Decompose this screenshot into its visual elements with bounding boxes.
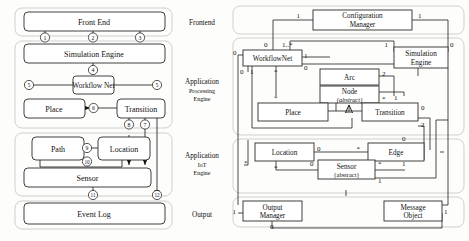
label-front-end: Front End bbox=[78, 18, 110, 27]
label-simulation-engine: Simulation Engine bbox=[64, 50, 124, 59]
label-simulation-engine-1: Simulation bbox=[405, 50, 437, 58]
layer-label-frontend: Frontend bbox=[189, 19, 215, 27]
layer-label-processing-2: Processing bbox=[189, 88, 215, 94]
right-class-boxes bbox=[243, 10, 448, 221]
label-transition: Transition bbox=[375, 109, 405, 117]
label-location: Location bbox=[272, 149, 298, 157]
badge-text-9: 9 bbox=[86, 145, 89, 151]
badge-text-6: 6 bbox=[92, 105, 95, 111]
badge-text-8: 8 bbox=[128, 122, 131, 128]
mult-msg-r: 1 bbox=[444, 208, 448, 216]
layer-label-processing-3: Engine bbox=[194, 96, 211, 102]
mult-trans-r1: 0 bbox=[421, 104, 425, 112]
mult-edge-top: 0 bbox=[402, 135, 406, 143]
mult-wfn-b3: * bbox=[274, 68, 278, 76]
mult-wfn-topm: 1..* bbox=[282, 41, 293, 49]
badge-text-1: 1 bbox=[44, 35, 47, 41]
mult-place-top: * bbox=[274, 94, 278, 102]
label-sensor-stereotype: {abstract} bbox=[333, 171, 359, 179]
label-message-object-1: Message bbox=[400, 204, 425, 212]
label-sensor: Sensor bbox=[77, 174, 99, 183]
mult-wfn-r1: 1 bbox=[304, 52, 308, 60]
mult-sensor-br: 1 bbox=[378, 177, 382, 185]
label-place: Place bbox=[45, 105, 63, 114]
mult-wfn-left: 0 bbox=[233, 49, 237, 57]
mult-cfg-right: 1 bbox=[418, 12, 422, 20]
label-edge: Edge bbox=[389, 149, 404, 157]
mult-sensor-r: * bbox=[378, 160, 382, 168]
badge-text-10: 10 bbox=[84, 159, 90, 165]
mult-wfn-r2: 0 bbox=[304, 64, 308, 72]
badge-text-12: 12 bbox=[154, 192, 160, 198]
layer-label-processing-1: Application bbox=[185, 78, 219, 86]
layer-label-output: Output bbox=[192, 211, 212, 219]
label-workflow-net: Workflow Net bbox=[72, 81, 115, 90]
mult-cfg-left: 1 bbox=[297, 12, 301, 20]
label-transition: Transition bbox=[125, 105, 158, 114]
layer-labels: Frontend Application Processing Engine A… bbox=[185, 19, 219, 219]
mult-edge-l: * bbox=[357, 145, 361, 153]
mult-loc-b: * bbox=[274, 164, 278, 172]
label-path: Path bbox=[51, 145, 65, 154]
figure-root: Frontend Application Processing Engine A… bbox=[0, 0, 469, 241]
diagram-svg: Frontend Application Processing Engine A… bbox=[0, 0, 469, 241]
mult-sim-topl: 1 bbox=[385, 41, 389, 49]
badge-text-7: 7 bbox=[144, 122, 147, 128]
label-output-manager-2: Manager bbox=[260, 212, 286, 220]
label-event-log: Event Log bbox=[77, 210, 111, 219]
label-location: Location bbox=[110, 145, 138, 154]
badge-text-3: 3 bbox=[139, 35, 142, 41]
generalization-arrows bbox=[346, 105, 349, 196]
mult-out-l: 1 bbox=[233, 208, 237, 216]
mult-arc-r: 2 bbox=[382, 70, 386, 78]
mult-sim-topr: 0 bbox=[450, 41, 454, 49]
mult-wfn-b1: 0 bbox=[240, 68, 244, 76]
layer-label-iot-1: Application bbox=[185, 152, 219, 160]
mult-sensor-l: 0 bbox=[310, 160, 314, 168]
mult-loc-bl: * bbox=[244, 159, 248, 167]
mult-loc-r: 0 bbox=[317, 145, 321, 153]
badge-text-11: 11 bbox=[91, 192, 96, 198]
label-configuration-manager-2: Manager bbox=[350, 21, 376, 29]
badge-text-2: 2 bbox=[92, 35, 95, 41]
mult-wfn-b2: 1 bbox=[250, 68, 254, 76]
label-message-object-2: Object bbox=[403, 212, 422, 220]
label-configuration-manager-1: Configuration bbox=[342, 12, 383, 20]
label-simulation-engine-2: Engine bbox=[411, 59, 431, 67]
badge-text-5a: 5 bbox=[28, 82, 31, 88]
label-output-manager-1: Output bbox=[263, 204, 283, 212]
mult-sensor-r2: 1 bbox=[402, 160, 406, 168]
label-place: Place bbox=[285, 109, 301, 117]
mult-node-r: * bbox=[382, 95, 386, 103]
badge-text-4: 4 bbox=[92, 67, 95, 73]
mult-wfn-top: 0 bbox=[264, 41, 268, 49]
badge-text-5b: 5 bbox=[156, 82, 159, 88]
label-arc: Arc bbox=[344, 74, 355, 82]
label-node-stereotype: {abstract} bbox=[336, 96, 363, 104]
mult-trans-r2: 2 bbox=[421, 121, 425, 129]
layer-label-iot-3: Engine bbox=[194, 170, 211, 176]
mult-trans-top: 1 bbox=[394, 94, 398, 102]
layer-label-iot-2: IoT bbox=[198, 162, 207, 168]
right-multiplicities: 1 1 0 1..* 1 0 0 1 0 0 1 * * 2 * 1 0 2 0… bbox=[233, 12, 455, 231]
mult-out-b: 0 bbox=[270, 223, 274, 231]
label-workflownet: WorkflowNet bbox=[253, 55, 292, 63]
